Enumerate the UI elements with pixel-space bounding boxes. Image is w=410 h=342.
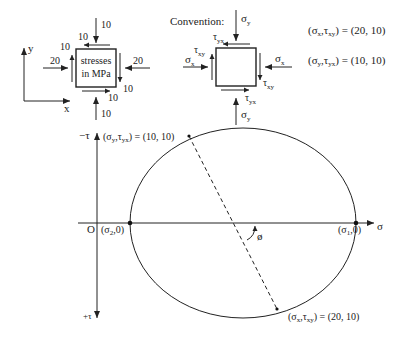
shear-left-label: 10 xyxy=(60,41,70,52)
y-face-stress: (σy,τyx) = (10, 10) xyxy=(308,54,386,68)
tau-xy-right-label: τxy xyxy=(263,77,275,91)
sigma1-label: (σ1,0) xyxy=(338,224,361,237)
mohr-circle-diagram: y x stresses in MPa 10 10 20 20 10 10 10… xyxy=(0,0,410,342)
sigma-axis-label: σ xyxy=(377,220,383,232)
sigma2-point xyxy=(128,221,133,226)
sign-convention: Convention: σy σy σx σx τyx τxy τxy τyx xyxy=(170,10,292,125)
tau-yx-bottom-label: τyx xyxy=(245,92,257,106)
tau-xy-left-label: τxy xyxy=(194,44,206,58)
box-text-line1: stresses xyxy=(81,55,112,66)
sigma2-label: (σ2,0) xyxy=(101,224,124,237)
shear-top-label: 10 xyxy=(78,31,88,42)
tau-yx-top-label: τyx xyxy=(213,31,225,45)
box-text-line2: in MPa xyxy=(81,68,111,79)
sigma-y-top-label: σy xyxy=(241,12,251,27)
x-face-point xyxy=(275,307,278,310)
sigma-x-right-label: σx xyxy=(275,52,285,67)
phi-label: ø xyxy=(257,230,263,242)
neg-tau-label: −τ xyxy=(79,129,90,141)
x-axis-label: x xyxy=(64,102,70,114)
shear-right-label: 10 xyxy=(123,83,133,94)
origin-label: O xyxy=(87,223,95,235)
convention-box xyxy=(216,48,256,86)
mohr-circle: −τ +τ σ O (σ2,0) (σ1,0) ø (σy,τyx) = (10… xyxy=(78,128,383,324)
right-load-label: 20 xyxy=(133,55,143,66)
shear-bottom-label: 10 xyxy=(108,92,118,103)
y-face-point-label: (σy,τyx) = (10, 10) xyxy=(103,131,174,144)
convention-title: Convention: xyxy=(170,15,224,27)
x-face-stress: (σx,τxy) = (20, 10) xyxy=(308,24,386,38)
y-face-point xyxy=(187,134,190,137)
stress-state: (σx,τxy) = (20, 10) (σy,τyx) = (10, 10) xyxy=(308,24,386,68)
left-load-label: 20 xyxy=(50,55,60,66)
x-face-point-label: (σx,τxy) = (20, 10) xyxy=(288,311,359,324)
sigma-y-bottom-label: σy xyxy=(241,108,251,123)
pos-tau-label: +τ xyxy=(83,311,92,321)
xy-axes: y x xyxy=(24,42,70,114)
sigma-x-left-label: σx xyxy=(185,53,195,68)
y-axis-label: y xyxy=(28,42,34,54)
top-load-label: 10 xyxy=(101,19,111,30)
stress-element: stresses in MPa 10 10 20 20 10 10 10 10 xyxy=(43,18,150,120)
bottom-load-label: 10 xyxy=(101,108,111,119)
phi-angle-arc xyxy=(247,226,255,240)
